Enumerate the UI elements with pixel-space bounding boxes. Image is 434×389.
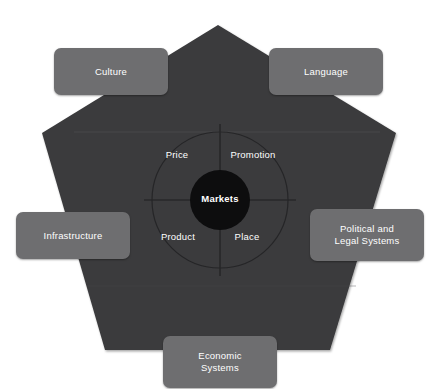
environment-box-infrastructure[interactable]: Infrastructure: [16, 212, 130, 259]
quadrant-label-promotion: Promotion: [218, 149, 288, 160]
environment-box-political-legal[interactable]: Political and Legal Systems: [310, 209, 424, 261]
quadrant-label-place: Place: [222, 231, 272, 242]
core-label-markets: Markets: [180, 193, 260, 204]
environment-box-political-legal-line1: Political and: [340, 223, 394, 234]
environment-box-culture[interactable]: Culture: [54, 48, 168, 95]
environment-box-political-legal-label: Political and Legal Systems: [335, 223, 400, 247]
environment-box-economic-systems-line1: Economic: [198, 350, 241, 361]
environment-box-economic-systems-label: Economic Systems: [198, 350, 241, 374]
environment-box-language-label: Language: [304, 66, 348, 78]
environment-box-language[interactable]: Language: [269, 48, 383, 95]
environment-box-economic-systems[interactable]: Economic Systems: [163, 336, 277, 388]
quadrant-label-price: Price: [151, 149, 203, 160]
environment-box-infrastructure-label: Infrastructure: [44, 230, 103, 242]
quadrant-label-product: Product: [148, 231, 208, 242]
environment-box-political-legal-line2: Legal Systems: [335, 235, 400, 246]
environment-box-culture-label: Culture: [95, 66, 127, 78]
diagram-canvas: Price Promotion Product Place Markets Cu…: [0, 0, 434, 389]
environment-box-economic-systems-line2: Systems: [201, 362, 239, 373]
